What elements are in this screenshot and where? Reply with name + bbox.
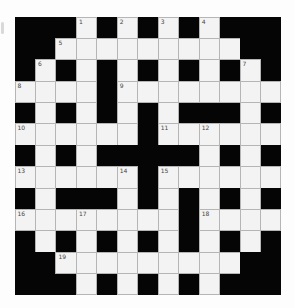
crossword-cell[interactable] xyxy=(117,252,138,274)
crossword-cell[interactable] xyxy=(260,81,281,103)
crossword-cell[interactable]: 18 xyxy=(199,209,220,231)
crossword-cell[interactable] xyxy=(158,209,179,231)
crossword-cell[interactable] xyxy=(219,81,240,103)
crossword-cell[interactable] xyxy=(178,166,199,188)
crossword-cell[interactable] xyxy=(76,123,97,145)
crossword-cell[interactable] xyxy=(219,123,240,145)
crossword-cell[interactable]: 10 xyxy=(15,123,36,145)
crossword-cell[interactable] xyxy=(260,123,281,145)
crossword-cell[interactable] xyxy=(199,252,220,274)
crossword-cell[interactable] xyxy=(178,123,199,145)
crossword-cell[interactable] xyxy=(240,123,261,145)
crossword-cell[interactable] xyxy=(199,188,220,210)
crossword-cell[interactable] xyxy=(117,38,138,60)
crossword-cell[interactable]: 7 xyxy=(240,59,261,81)
crossword-cell[interactable]: 13 xyxy=(15,166,36,188)
crossword-cell[interactable] xyxy=(137,81,158,103)
crossword-cell[interactable] xyxy=(35,209,56,231)
crossword-cell[interactable] xyxy=(137,252,158,274)
crossword-cell[interactable] xyxy=(158,81,179,103)
crossword-cell[interactable] xyxy=(137,38,158,60)
crossword-cell[interactable] xyxy=(76,252,97,274)
crossword-cell[interactable] xyxy=(178,38,199,60)
crossword-cell[interactable] xyxy=(76,145,97,167)
crossword-cell[interactable] xyxy=(117,59,138,81)
crossword-cell[interactable] xyxy=(260,166,281,188)
crossword-cell[interactable]: 8 xyxy=(15,81,36,103)
crossword-cell[interactable] xyxy=(260,209,281,231)
crossword-cell[interactable] xyxy=(35,230,56,252)
crossword-cell[interactable] xyxy=(117,230,138,252)
crossword-cell[interactable] xyxy=(117,102,138,124)
crossword-cell[interactable]: 3 xyxy=(158,17,179,39)
crossword-cell[interactable] xyxy=(240,166,261,188)
crossword-cell[interactable] xyxy=(55,166,76,188)
crossword-cell[interactable] xyxy=(55,123,76,145)
crossword-cell[interactable] xyxy=(219,38,240,60)
crossword-cell[interactable] xyxy=(76,166,97,188)
crossword-cell[interactable] xyxy=(219,166,240,188)
crossword-cell[interactable] xyxy=(219,252,240,274)
crossword-cell[interactable] xyxy=(137,209,158,231)
crossword-cell[interactable] xyxy=(158,188,179,210)
crossword-cell[interactable] xyxy=(96,38,117,60)
crossword-cell[interactable]: 6 xyxy=(35,59,56,81)
crossword-cell[interactable] xyxy=(199,38,220,60)
crossword-cell[interactable] xyxy=(240,209,261,231)
crossword-cell[interactable] xyxy=(76,230,97,252)
crossword-cell[interactable] xyxy=(117,123,138,145)
crossword-cell[interactable] xyxy=(96,123,117,145)
crossword-cell[interactable] xyxy=(117,273,138,295)
crossword-cell[interactable] xyxy=(117,209,138,231)
crossword-cell[interactable] xyxy=(76,38,97,60)
crossword-cell[interactable] xyxy=(199,166,220,188)
crossword-cell[interactable] xyxy=(240,81,261,103)
crossword-cell[interactable] xyxy=(55,209,76,231)
crossword-cell[interactable] xyxy=(158,102,179,124)
crossword-cell[interactable]: 16 xyxy=(15,209,36,231)
crossword-cell[interactable] xyxy=(35,123,56,145)
crossword-cell[interactable] xyxy=(158,38,179,60)
crossword-cell[interactable] xyxy=(199,81,220,103)
crossword-cell[interactable] xyxy=(35,102,56,124)
crossword-cell[interactable]: 12 xyxy=(199,123,220,145)
crossword-cell[interactable] xyxy=(76,59,97,81)
crossword-cell[interactable] xyxy=(199,59,220,81)
crossword-cell[interactable] xyxy=(219,209,240,231)
crossword-cell[interactable] xyxy=(178,252,199,274)
crossword-cell[interactable]: 4 xyxy=(199,17,220,39)
crossword-cell[interactable] xyxy=(76,273,97,295)
crossword-cell[interactable] xyxy=(35,188,56,210)
crossword-cell[interactable] xyxy=(158,59,179,81)
crossword-cell[interactable]: 1 xyxy=(76,17,97,39)
crossword-cell[interactable] xyxy=(117,188,138,210)
crossword-cell[interactable] xyxy=(158,252,179,274)
crossword-cell[interactable] xyxy=(199,273,220,295)
crossword-cell[interactable] xyxy=(76,81,97,103)
crossword-cell[interactable]: 5 xyxy=(55,38,76,60)
crossword-cell[interactable]: 15 xyxy=(158,166,179,188)
crossword-cell[interactable] xyxy=(199,230,220,252)
crossword-cell[interactable] xyxy=(76,102,97,124)
crossword-cell[interactable] xyxy=(96,209,117,231)
crossword-cell[interactable] xyxy=(178,81,199,103)
crossword-cell[interactable] xyxy=(240,102,261,124)
crossword-cell[interactable] xyxy=(158,273,179,295)
crossword-cell[interactable] xyxy=(199,145,220,167)
crossword-cell[interactable] xyxy=(35,145,56,167)
crossword-cell[interactable] xyxy=(158,230,179,252)
crossword-cell[interactable] xyxy=(55,81,76,103)
crossword-cell[interactable]: 9 xyxy=(117,81,138,103)
crossword-cell[interactable]: 14 xyxy=(117,166,138,188)
crossword-cell[interactable] xyxy=(96,166,117,188)
crossword-cell[interactable]: 11 xyxy=(158,123,179,145)
crossword-cell[interactable] xyxy=(240,145,261,167)
crossword-cell[interactable] xyxy=(240,230,261,252)
crossword-cell[interactable] xyxy=(240,188,261,210)
crossword-cell[interactable] xyxy=(35,166,56,188)
crossword-cell[interactable] xyxy=(96,252,117,274)
crossword-cell[interactable]: 17 xyxy=(76,209,97,231)
crossword-cell[interactable] xyxy=(35,81,56,103)
crossword-cell[interactable]: 19 xyxy=(55,252,76,274)
crossword-cell[interactable]: 2 xyxy=(117,17,138,39)
